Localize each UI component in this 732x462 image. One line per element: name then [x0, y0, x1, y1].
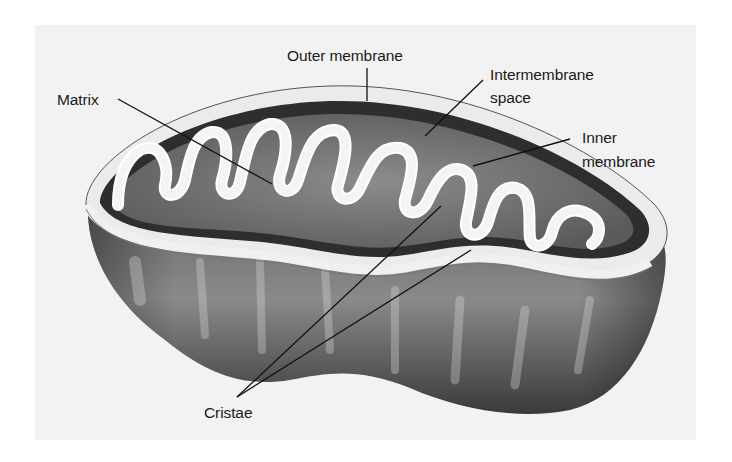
label-outer-membrane: Outer membrane — [287, 47, 403, 65]
mitochondrion-illustration — [0, 0, 732, 462]
label-inner-membrane-line1: Inner — [582, 129, 617, 147]
label-cristae: Cristae — [204, 404, 252, 422]
label-inner-membrane-line2: membrane — [582, 153, 655, 171]
label-intermembrane-space-line2: space — [490, 89, 531, 107]
label-matrix: Matrix — [57, 91, 99, 109]
label-intermembrane-space-line1: Intermembrane — [490, 66, 594, 84]
